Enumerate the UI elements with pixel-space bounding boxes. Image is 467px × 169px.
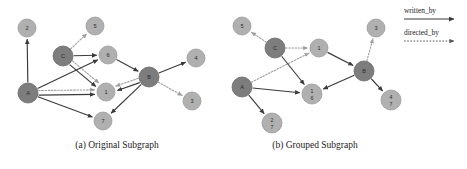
original-subgraph-svg: 25C64A1B37: [0, 0, 234, 140]
dotted-arrow-icon: [404, 38, 462, 44]
node-circle[interactable]: [94, 112, 112, 130]
graph-edge: [73, 61, 99, 83]
legend: written_by directed_by: [404, 6, 464, 50]
graph-node[interactable]: 4: [187, 49, 205, 67]
caption-original-subgraph: (a) Original Subgraph: [0, 140, 234, 150]
graph-node[interactable]: 2: [18, 19, 36, 37]
graph-edge: [116, 60, 138, 72]
graph-edge: [367, 39, 373, 61]
node-circle[interactable]: [53, 46, 73, 66]
node-circle[interactable]: [381, 90, 401, 110]
node-circle[interactable]: [86, 17, 104, 35]
graph-edge: [158, 82, 182, 95]
graph-edge: [253, 88, 300, 93]
graph-edge: [27, 39, 28, 82]
graph-node[interactable]: B: [139, 67, 159, 87]
graph-edge: [38, 97, 93, 117]
graph-edge: [323, 75, 354, 89]
node-circle[interactable]: [310, 39, 328, 57]
legend-label-written-by: written_by: [404, 6, 464, 15]
node-circle[interactable]: [187, 49, 205, 67]
graph-node[interactable]: 16: [302, 84, 322, 104]
solid-arrow-icon: [404, 16, 462, 22]
panel-original-subgraph: 25C64A1B37: [0, 0, 234, 140]
graph-edge: [159, 62, 186, 73]
grouped-subgraph-svg: 5C13BA164727: [225, 0, 405, 140]
graph-node[interactable]: C: [53, 46, 73, 66]
graph-edge: [251, 53, 309, 82]
graph-node[interactable]: 5: [86, 17, 104, 35]
node-circle[interactable]: [18, 83, 38, 103]
graph-node[interactable]: 1: [97, 83, 115, 101]
caption-grouped-subgraph: (b) Grouped Subgraph: [225, 140, 405, 150]
legend-label-directed-by: directed_by: [404, 28, 464, 37]
graph-node[interactable]: 1: [310, 39, 328, 57]
graph-node[interactable]: 27: [262, 113, 282, 133]
graph-edge: [74, 55, 97, 56]
node-circle[interactable]: [99, 46, 117, 64]
node-circle[interactable]: [265, 38, 285, 58]
graph-node[interactable]: 47: [381, 90, 401, 110]
node-circle[interactable]: [262, 113, 282, 133]
node-circle[interactable]: [97, 83, 115, 101]
graph-edge: [39, 90, 95, 91]
graph-edge: [251, 32, 266, 42]
node-circle[interactable]: [139, 67, 159, 87]
graph-edge: [371, 79, 382, 91]
graph-edge: [71, 34, 87, 49]
graph-edge: [282, 56, 305, 84]
node-circle[interactable]: [232, 77, 252, 97]
node-circle[interactable]: [233, 17, 251, 35]
graph-node[interactable]: 6: [99, 46, 117, 64]
figure-container: 25C64A1B37 5C13BA164727 (a) Original Sub…: [0, 0, 467, 169]
graph-node[interactable]: B: [354, 61, 374, 81]
nodes-layer: 5C13BA164727: [232, 17, 401, 133]
graph-node[interactable]: C: [265, 38, 285, 58]
graph-edge: [111, 84, 141, 113]
graph-edge: [328, 52, 354, 65]
legend-item-written-by: written_by: [404, 6, 464, 28]
graph-edge: [70, 65, 96, 87]
graph-node[interactable]: 7: [94, 112, 112, 130]
node-circle[interactable]: [354, 61, 374, 81]
graph-edge: [39, 94, 95, 95]
node-circle[interactable]: [18, 19, 36, 37]
graph-node[interactable]: A: [18, 83, 38, 103]
graph-node[interactable]: 5: [233, 17, 251, 35]
node-circle[interactable]: [183, 92, 201, 110]
node-circle[interactable]: [367, 19, 385, 37]
graph-node[interactable]: 3: [367, 19, 385, 37]
graph-node[interactable]: A: [232, 77, 252, 97]
legend-item-directed-by: directed_by: [404, 28, 464, 50]
graph-node[interactable]: 3: [183, 92, 201, 110]
node-circle[interactable]: [302, 84, 322, 104]
panel-grouped-subgraph: 5C13BA164727: [225, 0, 405, 140]
graph-edge: [249, 95, 264, 113]
